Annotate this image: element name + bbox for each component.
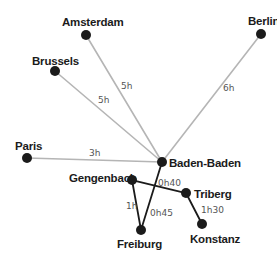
city-node-amsterdam [81, 30, 91, 40]
edge-duration-label: 0h45 [150, 208, 173, 218]
city-node-baden-baden [157, 157, 167, 167]
city-node-brussels [50, 66, 60, 76]
edge-duration-label: 5h [121, 81, 132, 91]
city-label-berlin: Berlin [248, 15, 277, 27]
city-label-baden-baden: Baden-Baden [169, 157, 241, 169]
edge-duration-label: 5h [98, 95, 109, 105]
city-label-konstanz: Konstanz [190, 233, 241, 245]
edge-duration-label: 3h [89, 148, 100, 158]
city-label-amsterdam: Amsterdam [62, 16, 123, 28]
city-node-berlin [256, 29, 266, 39]
travel-network-diagram: 5h5h6h3h0h400h451h1h30 AmsterdamBerlinBr… [0, 0, 277, 266]
city-node-konstanz [197, 219, 207, 229]
city-label-freiburg: Freiburg [117, 238, 162, 250]
city-node-freiburg [136, 225, 146, 235]
edge-brussels-baden-baden [55, 71, 162, 162]
city-label-gengenbach: Gengenbach [69, 172, 137, 184]
edge-duration-label: 1h30 [201, 205, 224, 215]
city-label-paris: Paris [15, 140, 42, 152]
city-label-triberg: Triberg [194, 188, 232, 200]
edge-duration-label: 1h [126, 201, 137, 211]
city-node-paris [22, 153, 32, 163]
edge-duration-label: 6h [223, 83, 234, 93]
edge-berlin-baden-baden [162, 34, 261, 162]
edge-baden-baden-freiburg [141, 162, 162, 230]
edge-duration-label: 0h40 [158, 178, 181, 188]
edge-paris-baden-baden [27, 158, 162, 162]
city-node-triberg [181, 188, 191, 198]
city-label-brussels: Brussels [32, 55, 79, 67]
